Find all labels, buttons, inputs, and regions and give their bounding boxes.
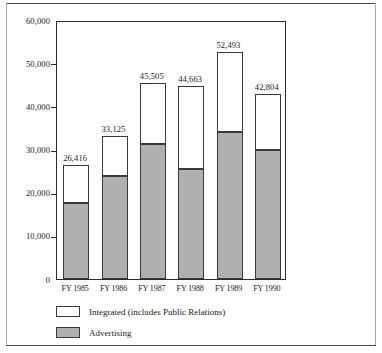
bar-segment-integrated <box>140 83 166 145</box>
gray-swatch-icon <box>56 327 80 338</box>
bar-segment-integrated <box>178 86 204 169</box>
chart-legend: Integrated (includes Public Relations) A… <box>56 303 225 345</box>
page-rule-bottom <box>6 345 376 346</box>
x-axis-label-fy-1990: FY 1990 <box>244 284 290 293</box>
bar-segment-integrated <box>217 52 243 132</box>
page-edge-left <box>6 3 7 346</box>
legend-item-integrated: Integrated (includes Public Relations) <box>56 303 225 320</box>
white-swatch-icon <box>56 306 80 317</box>
page-edge-right <box>375 3 376 346</box>
bar-total-label: 52,493 <box>205 41 253 50</box>
bar-segment-integrated <box>102 136 128 176</box>
bar-fy-1987 <box>140 83 166 279</box>
plot-area <box>56 21 286 280</box>
bar-total-label: 42,804 <box>243 83 291 92</box>
bar-segment-advertising <box>102 176 128 279</box>
bar-fy-1990 <box>255 94 281 279</box>
y-axis-tick-label: 60,000 <box>6 17 50 26</box>
y-axis-tick-label: 40,000 <box>6 103 50 112</box>
bar-segment-integrated <box>255 94 281 150</box>
stacked-bar-chart-figure: 60,00050,00040,00030,00020,00010,0000 FY… <box>0 0 382 353</box>
y-axis-tick-label: 50,000 <box>6 60 50 69</box>
bar-segment-advertising <box>140 144 166 279</box>
bar-fy-1989 <box>217 52 243 279</box>
legend-item-label: Integrated (includes Public Relations) <box>89 307 225 317</box>
bar-total-label: 44,663 <box>166 75 214 84</box>
y-axis-tick-label: 30,000 <box>6 146 50 155</box>
y-axis-tick-label: 20,000 <box>6 189 50 198</box>
legend-item-advertising: Advertising <box>56 324 225 341</box>
page-rule-top <box>6 3 376 4</box>
legend-item-label: Advertising <box>89 328 132 338</box>
bar-fy-1988 <box>178 86 204 279</box>
bar-total-label: 33,125 <box>90 125 138 134</box>
bar-segment-advertising <box>255 150 281 279</box>
bar-fy-1985 <box>63 165 89 279</box>
bar-segment-integrated <box>63 165 89 203</box>
bar-fy-1986 <box>102 136 128 279</box>
bar-segment-advertising <box>217 132 243 279</box>
bar-segment-advertising <box>63 203 89 279</box>
bar-total-label: 26,416 <box>51 154 99 163</box>
bar-segment-advertising <box>178 169 204 279</box>
y-axis-tick-label: 0 <box>6 276 50 285</box>
y-axis-tick-label: 10,000 <box>6 232 50 241</box>
